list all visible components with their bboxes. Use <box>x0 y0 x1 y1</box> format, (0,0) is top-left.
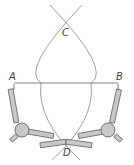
diagram-canvas: A B C D <box>0 0 134 165</box>
label-c: C <box>62 27 69 38</box>
compass-left-pivot-icon <box>15 123 29 137</box>
compass-right <box>66 84 123 148</box>
compass-left <box>8 84 66 148</box>
label-b: B <box>116 71 123 82</box>
compass-right-pivot-icon <box>101 123 115 137</box>
label-d: D <box>63 147 71 158</box>
label-a: A <box>8 71 16 82</box>
